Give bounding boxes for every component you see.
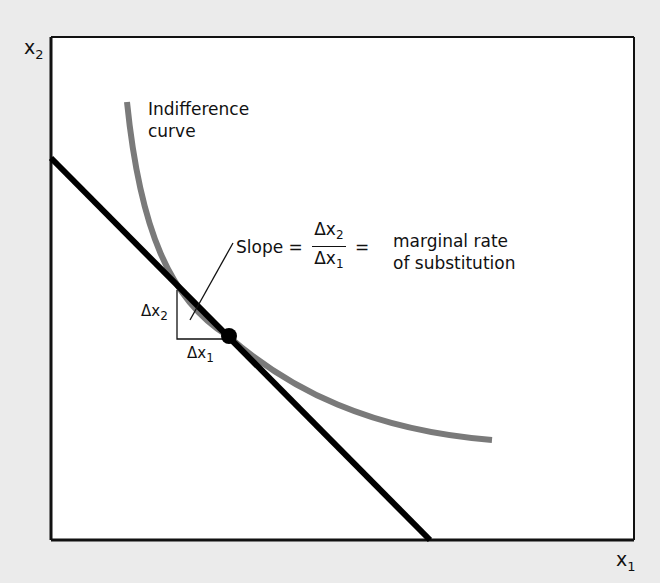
delta-x1-label: Δx1 (187, 344, 214, 365)
diagram-canvas: x2 x1 Indifference curve Slope = Δx2 Δx1… (0, 0, 660, 583)
tangency-point (221, 328, 237, 344)
y-axis-label: x2 (24, 36, 44, 62)
mrs-line1: marginal rate (393, 230, 515, 252)
slope-prefix: Slope = (236, 237, 303, 257)
slope-fraction: Δx2 Δx1 (312, 218, 345, 276)
mrs-diagram (0, 0, 660, 583)
slope-denominator: Δx1 (312, 247, 345, 275)
delta-x2-label: Δx2 (141, 302, 168, 323)
curve-label-line2: curve (148, 120, 249, 142)
slope-equals: = (355, 237, 369, 257)
x-axis-label: x1 (616, 548, 636, 574)
slope-formula: Slope = Δx2 Δx1 = (236, 218, 375, 276)
indifference-curve-label: Indifference curve (148, 98, 249, 142)
mrs-line2: of substitution (393, 252, 515, 274)
slope-numerator: Δx2 (312, 218, 345, 247)
mrs-description: marginal rate of substitution (393, 230, 515, 274)
curve-label-line1: Indifference (148, 98, 249, 120)
plot-area-full (51, 37, 634, 540)
